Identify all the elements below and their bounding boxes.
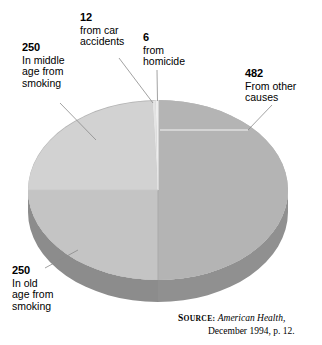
callout-other-causes: 482 From other causes [245,68,296,104]
callout-value-other-causes: 482 [245,68,296,80]
pie-chart-figure: 250 In middle age from smoking 12 from c… [0,0,322,345]
source-note: Source: American Health, December 1994, … [178,312,295,337]
callout-desc-old-age-smoking-line2: age from [12,289,53,301]
source-publication: American Health, [218,313,286,323]
source-label-rest: ource: [184,314,216,323]
pie-slice-middle-age-smoking [28,101,158,190]
callout-desc-car-accidents-line2: accidents [80,36,124,48]
leader-line-other-causes [248,105,272,130]
callout-homicide: 6 from homicide [143,32,185,68]
source-date: December 1994, p. 12. [178,325,295,337]
callout-value-homicide: 6 [143,32,185,44]
callout-value-old-age-smoking: 250 [12,265,53,277]
callout-desc-old-age-smoking-line3: smoking [12,301,53,313]
callout-car-accidents: 12 from car accidents [80,12,124,48]
callout-desc-other-causes-line2: causes [245,92,296,104]
callout-value-car-accidents: 12 [80,12,124,24]
callout-middle-age-smoking: 250 In middle age from smoking [22,42,65,89]
callout-desc-middle-age-smoking-line2: age from [22,66,65,78]
callout-desc-homicide-line2: homicide [143,56,185,68]
callout-value-middle-age-smoking: 250 [22,42,65,54]
leader-line-homicide [157,70,158,101]
callout-old-age-smoking: 250 In old age from smoking [12,265,53,312]
source-label: Source: [178,314,215,323]
callout-desc-middle-age-smoking-line3: smoking [22,78,65,90]
